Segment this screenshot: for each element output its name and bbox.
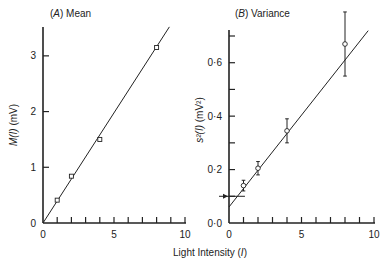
y-tick-label: 1 <box>30 162 36 173</box>
panel-a-mean: (A) Mean 05100123 M(I) (mV) <box>8 8 191 240</box>
y-tick-label: 0·4 <box>208 111 223 122</box>
x-tick-label: 5 <box>111 229 117 240</box>
panel-b-variance: (B) Variance 05100·00·20·40·6 s²(I) (mV²… <box>194 8 380 240</box>
figure: (A) Mean 05100123 M(I) (mV) (B) Variance… <box>0 0 388 270</box>
fit-line <box>43 27 169 223</box>
y-tick-label: 0·2 <box>208 164 223 175</box>
panel-b-ylabel: s²(I) (mV²) <box>194 97 205 143</box>
x-tick-label: 5 <box>299 229 305 240</box>
data-point <box>98 137 102 141</box>
x-tick-label: 10 <box>179 229 191 240</box>
panel-a-title: (A) Mean <box>50 8 91 19</box>
data-point <box>155 46 159 50</box>
data-point <box>285 129 290 134</box>
panel-a-ylabel: M(I) (mV) <box>8 104 19 146</box>
arrow-icon <box>223 194 228 199</box>
y-tick-label: 2 <box>30 106 36 117</box>
y-tick-label: 0·6 <box>208 57 223 68</box>
y-tick-label: 3 <box>30 50 36 61</box>
data-point <box>69 174 73 178</box>
data-point <box>256 166 261 171</box>
y-tick-label: 0·0 <box>208 218 223 229</box>
panel-b-title: (B) Variance <box>235 8 290 19</box>
x-tick-label: 0 <box>40 229 46 240</box>
data-point <box>343 42 348 47</box>
x-tick-label: 0 <box>226 229 232 240</box>
shared-xlabel: Light Intensity (I) <box>173 247 247 258</box>
fit-line <box>229 31 368 207</box>
x-tick-label: 10 <box>368 229 380 240</box>
y-tick-label: 0 <box>30 218 36 229</box>
data-point <box>55 198 59 202</box>
data-point <box>241 183 246 188</box>
